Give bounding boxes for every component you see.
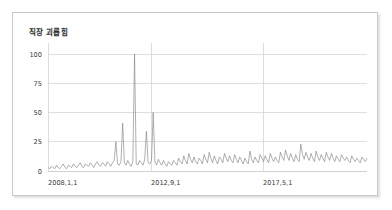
horizontal-gridlines	[48, 54, 367, 171]
xtick-label-2008: 2008,1,1	[48, 179, 77, 187]
ytick-label-25: 25	[34, 138, 42, 146]
data-series-group	[48, 54, 367, 169]
ytick-label-0: 0	[38, 168, 42, 176]
screenshot-root: 100 75 50 25 0 2008,1,1 2012,9,1 2017,5,…	[0, 0, 392, 210]
xtick-label-2012: 2012,9,1	[151, 179, 180, 187]
chart-card: 100 75 50 25 0 2008,1,1 2012,9,1 2017,5,…	[12, 12, 378, 196]
chart-plot-area: 100 75 50 25 0 2008,1,1 2012,9,1 2017,5,…	[13, 13, 379, 197]
ytick-label-75: 75	[34, 80, 42, 88]
ytick-label-100: 100	[29, 51, 42, 59]
y-axis-labels: 100 75 50 25 0	[29, 51, 42, 176]
x-axis-labels: 2008,1,1 2012,9,1 2017,5,1	[48, 179, 292, 187]
chart-title: 직장 괴롭힘	[29, 29, 68, 37]
ytick-label-50: 50	[34, 109, 42, 117]
xtick-label-2017: 2017,5,1	[263, 179, 292, 187]
vertical-gridlines	[48, 43, 263, 171]
series-line-harassment	[48, 54, 367, 169]
chart-svg: 100 75 50 25 0 2008,1,1 2012,9,1 2017,5,…	[13, 13, 379, 197]
